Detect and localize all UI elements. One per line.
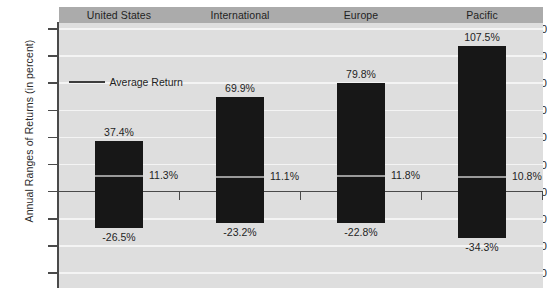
average-return-line [337,175,385,177]
gridline [59,272,543,274]
gridline [59,28,543,30]
y-axis-tick [48,110,58,112]
y-axis-tick [48,28,58,30]
low-value-label: -23.2% [223,226,256,238]
y-axis-tick [48,245,58,247]
high-value-label: 69.9% [225,82,255,94]
range-bar [95,141,143,228]
average-value-label: 11.3% [149,169,178,181]
y-axis-tick [48,272,58,274]
average-value-label: 10.8% [512,170,542,182]
y-axis-tick [48,55,58,57]
range-bar [216,97,264,223]
average-value-label: 11.1% [270,170,299,182]
high-value-label: 107.5% [464,31,500,43]
column-header-international: International [180,7,301,23]
high-value-label: 79.8% [346,68,376,80]
category-header-band: United States International Europe Pacif… [59,7,543,23]
average-return-line [95,175,143,177]
low-value-label: -26.5% [102,231,135,243]
range-bar [337,83,385,222]
legend-label-average-return: Average Return [110,76,183,88]
category-separator-tick [542,191,544,200]
column-header-europe: Europe [301,7,422,23]
low-value-label: -34.3% [465,241,498,253]
low-value-label: -22.8% [344,226,377,238]
average-return-line [216,176,264,178]
category-separator-tick [300,191,302,200]
y-axis-tick [48,218,58,220]
column-header-united-states: United States [59,7,180,23]
y-axis-tick [48,82,58,84]
category-separator-tick [179,191,181,200]
column-header-pacific: Pacific [422,7,543,23]
legend: Average Return [69,76,183,88]
y-axis-tick [48,164,58,166]
plot-area: United States International Europe Pacif… [59,7,543,288]
category-separator-tick [421,191,423,200]
y-axis-title: Annual Ranges of Returns (in percent) [23,6,35,256]
range-bar [458,46,506,238]
average-return-line [458,176,506,178]
y-axis-tick [48,137,58,139]
high-value-label: 37.4% [104,126,134,138]
returns-range-chart: Annual Ranges of Returns (in percent) 12… [0,0,547,302]
average-return-line-icon [69,81,105,84]
average-value-label: 11.8% [391,169,420,181]
